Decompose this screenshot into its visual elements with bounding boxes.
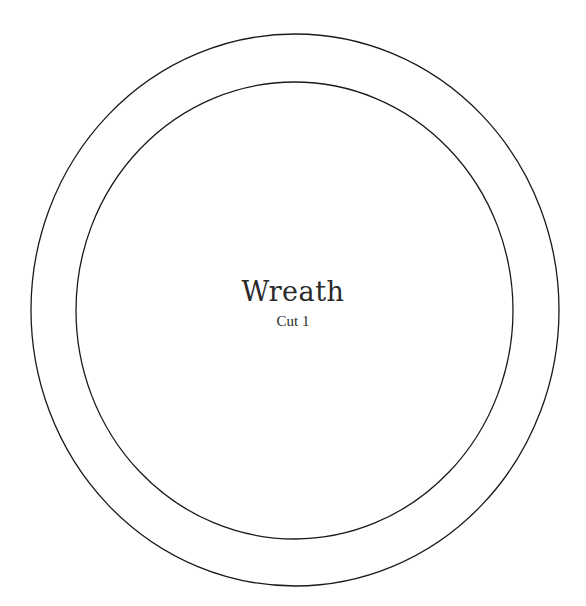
inner-ring-outline — [76, 82, 513, 539]
template-subtitle: Cut 1 — [0, 313, 586, 330]
outer-ring-outline — [31, 34, 559, 586]
template-title: Wreath — [0, 276, 586, 307]
